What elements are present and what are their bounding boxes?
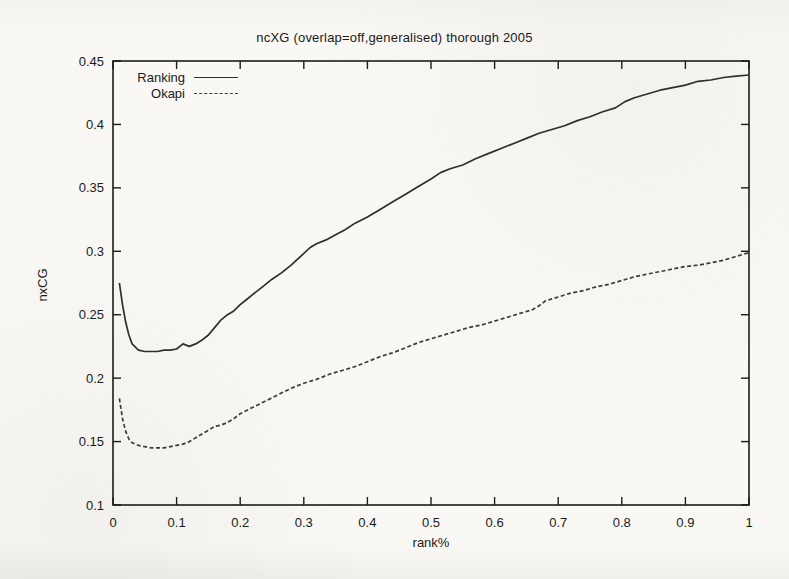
scanned-chart-page: ncXG (overlap=off,generalised) thorough … bbox=[0, 0, 789, 579]
y-tick-label: 0.2 bbox=[86, 371, 104, 386]
y-tick-label: 0.15 bbox=[79, 434, 104, 449]
series-okapi-line bbox=[119, 253, 749, 448]
x-tick-label: 0.4 bbox=[358, 515, 376, 530]
x-tick-label: 0 bbox=[109, 515, 116, 530]
x-tick-label: 0.1 bbox=[168, 515, 186, 530]
x-tick-label: 0.6 bbox=[486, 515, 504, 530]
x-tick-label: 0.8 bbox=[613, 515, 631, 530]
y-ticks: 0.10.150.20.250.30.350.40.45 bbox=[79, 54, 749, 513]
x-tick-label: 0.9 bbox=[676, 515, 694, 530]
plot-area: 00.10.20.30.40.50.60.70.80.910.10.150.20… bbox=[0, 0, 789, 579]
plot-border bbox=[113, 61, 749, 505]
y-tick-label: 0.1 bbox=[86, 498, 104, 513]
x-tick-label: 0.3 bbox=[295, 515, 313, 530]
legend-label-okapi: Okapi bbox=[125, 86, 194, 101]
legend-entry-okapi: Okapi bbox=[125, 85, 238, 101]
x-tick-label: 0.2 bbox=[231, 515, 249, 530]
x-axis-label: rank% bbox=[113, 535, 749, 550]
series-ranking-line bbox=[119, 75, 749, 352]
legend-entry-ranking: Ranking bbox=[125, 69, 238, 85]
y-axis-label: nxCG bbox=[35, 268, 50, 301]
x-ticks: 00.10.20.30.40.50.60.70.80.91 bbox=[109, 61, 752, 530]
y-tick-label: 0.35 bbox=[79, 180, 104, 195]
legend-label-ranking: Ranking bbox=[125, 70, 194, 85]
y-tick-label: 0.25 bbox=[79, 307, 104, 322]
y-tick-label: 0.4 bbox=[86, 117, 104, 132]
y-tick-label: 0.3 bbox=[86, 244, 104, 259]
x-tick-label: 1 bbox=[745, 515, 752, 530]
x-tick-label: 0.5 bbox=[422, 515, 440, 530]
y-tick-label: 0.45 bbox=[79, 54, 104, 69]
okapi-line-sample bbox=[194, 93, 238, 94]
ranking-line-sample bbox=[194, 77, 238, 78]
x-tick-label: 0.7 bbox=[549, 515, 567, 530]
legend: Ranking Okapi bbox=[125, 69, 238, 101]
